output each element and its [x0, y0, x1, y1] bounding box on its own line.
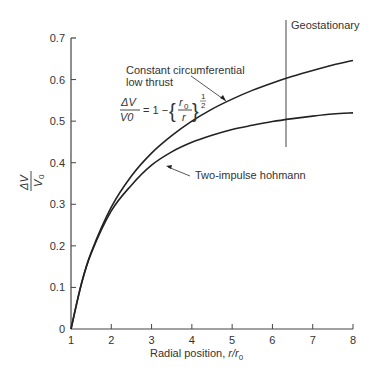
y-tick-label: 0.3 [50, 198, 65, 210]
low-thrust-label-line1: Constant circumferential [126, 64, 245, 76]
svg-text:}: } [192, 100, 199, 122]
y-tick-label: 0 [59, 323, 65, 335]
equation: ΔV V0 = 1 − { r 0 r } 1 2 [120, 92, 206, 123]
y-tick-label: 0.6 [50, 74, 65, 86]
y-ticks: 00.10.20.30.40.50.60.7 [50, 32, 76, 335]
x-tick-label: 6 [269, 334, 275, 346]
svg-text:= 1 −: = 1 − [143, 104, 168, 116]
x-tick-label: 8 [350, 334, 356, 346]
svg-text:{: { [169, 100, 176, 122]
y-tick-label: 0.2 [50, 240, 65, 252]
y-tick-label: 0.4 [50, 157, 65, 169]
hohmann-label: Two-impulse hohmann [195, 169, 306, 181]
svg-text:r: r [182, 111, 187, 123]
y-tick-label: 0.1 [50, 281, 65, 293]
svg-text:0: 0 [37, 174, 46, 179]
low-thrust-arrowhead [220, 95, 226, 101]
x-tick-label: 1 [68, 334, 74, 346]
x-tick-label: 4 [189, 334, 195, 346]
hohmann-pointer [168, 167, 190, 176]
svg-text:1: 1 [201, 92, 206, 101]
y-tick-label: 0.5 [50, 115, 65, 127]
low-thrust-label-line2: low thrust [126, 76, 173, 88]
geostationary-label: Geostationary [291, 19, 360, 31]
svg-text:2: 2 [201, 101, 206, 110]
x-tick-label: 2 [108, 334, 114, 346]
svg-text:ΔV: ΔV [120, 96, 137, 108]
x-axis-label: Radial position, r/r0 [150, 347, 244, 362]
x-ticks: 12345678 [68, 324, 356, 346]
svg-text:ΔV: ΔV [18, 174, 30, 191]
y-axis-label: ΔV V 0 [18, 171, 46, 191]
series-hohmann [71, 113, 353, 329]
x-tick-label: 3 [149, 334, 155, 346]
series-low-thrust [71, 60, 353, 329]
x-tick-label: 5 [229, 334, 235, 346]
y-tick-label: 0.7 [50, 32, 65, 44]
chart: 00.10.20.30.40.50.60.7 12345678 Geostati… [0, 0, 376, 377]
svg-text:V0: V0 [120, 111, 134, 123]
x-tick-label: 7 [310, 334, 316, 346]
hohmann-arrowhead [166, 165, 172, 169]
